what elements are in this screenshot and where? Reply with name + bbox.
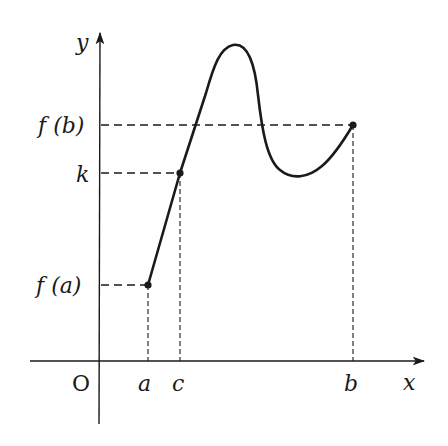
tick-label-c: c [172, 371, 184, 396]
point-a [144, 281, 151, 288]
function-curve [148, 45, 353, 285]
tick-label-fa: f (a) [34, 273, 81, 298]
tick-label-k: k [76, 162, 89, 187]
tick-label-a: a [138, 371, 151, 396]
tick-label-b: b [344, 371, 358, 396]
y-axis [99, 33, 100, 424]
point-b [349, 121, 356, 128]
diagram-canvas: y x O a c b f (b) k f (a) [0, 0, 448, 446]
origin-label: O [72, 371, 90, 396]
point-c [176, 169, 183, 176]
tick-label-fb: f (b) [36, 113, 84, 138]
y-axis-label: y [75, 30, 89, 55]
x-axis-label: x [403, 370, 416, 395]
ivt-diagram: y x O a c b f (b) k f (a) [0, 0, 448, 446]
